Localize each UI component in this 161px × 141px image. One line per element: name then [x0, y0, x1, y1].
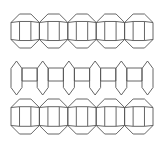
- hexagon-outline: [90, 61, 101, 95]
- octagon-outline: [96, 14, 124, 48]
- inner-square: [76, 107, 87, 127]
- hexagon-outline: [63, 61, 74, 95]
- hexagon-outline: [116, 61, 127, 95]
- connecting-square: [74, 68, 89, 81]
- octagon-square-chain-top: [11, 14, 153, 48]
- octagon-square-chain-bottom: [11, 99, 153, 134]
- octagon-outline: [125, 99, 153, 134]
- octagon-outline: [96, 99, 124, 134]
- octagon-outline: [68, 14, 96, 48]
- octagon-outline: [11, 99, 39, 134]
- hexagon-outline: [11, 61, 22, 95]
- inner-square: [105, 21, 116, 40]
- octagon-outline: [11, 14, 39, 48]
- inner-square: [20, 107, 31, 127]
- diagram-canvas: [0, 0, 161, 141]
- connecting-square: [22, 68, 37, 81]
- hexagon-square-chain-middle: [11, 61, 153, 95]
- inner-square: [48, 107, 59, 127]
- inner-square: [133, 107, 144, 127]
- connecting-square: [101, 68, 116, 81]
- octagon-outline: [68, 99, 96, 134]
- inner-square: [105, 107, 116, 127]
- inner-square: [48, 21, 59, 40]
- inner-square: [76, 21, 87, 40]
- inner-square: [133, 21, 144, 40]
- connecting-square: [48, 68, 63, 81]
- connecting-square: [127, 68, 142, 81]
- hexagon-outline: [142, 61, 153, 95]
- octagon-outline: [125, 14, 153, 48]
- hexagon-outline: [37, 61, 48, 95]
- inner-square: [20, 21, 31, 40]
- octagon-outline: [39, 14, 67, 48]
- octagon-outline: [39, 99, 67, 134]
